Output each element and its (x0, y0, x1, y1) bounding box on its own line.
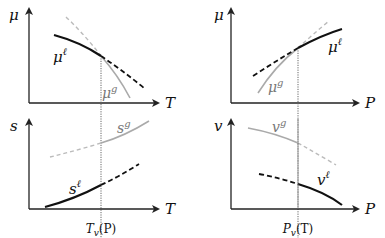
x-axis-label: P (364, 200, 376, 218)
y-axis-label: s (10, 117, 18, 135)
x-axis-label: T (165, 200, 176, 218)
transition-pressure-label: Pv(T) (282, 222, 314, 238)
gas-curve-metastable (298, 143, 336, 165)
transition-temperature-label: Tv(P) (86, 222, 117, 238)
gas-curve-metastable (66, 17, 101, 56)
x-axis-label: P (364, 94, 376, 112)
liquid-label: μℓ (53, 46, 67, 66)
panel-v-vs-P: v P vℓ vg Pv(T) (214, 117, 376, 238)
y-axis-label: μ (214, 6, 224, 24)
liquid-label: μℓ (328, 36, 342, 56)
panel-s-vs-T: s T sℓ sg Tv(P) (10, 117, 176, 238)
gas-curve-metastable (50, 143, 101, 157)
liquid-label: vℓ (317, 169, 330, 189)
liquid-curve-metastable (101, 56, 144, 88)
gas-label: sg (117, 118, 131, 136)
gas-label: vg (272, 117, 286, 135)
panel-mu-vs-P: μ P μℓ μg (214, 6, 376, 238)
liquid-curve-metastable (259, 174, 298, 184)
phase-transition-diagram: μ T μℓ μg μ P μℓ μg s T (0, 0, 385, 238)
liquid-curve-metastable (101, 164, 139, 185)
y-axis-label: μ (9, 6, 19, 24)
x-axis-label: T (165, 94, 176, 112)
panel-mu-vs-T: μ T μℓ μg (9, 6, 176, 238)
gas-label: μg (268, 77, 284, 95)
liquid-curve-metastable (253, 48, 298, 76)
gas-label: μg (102, 83, 118, 101)
y-axis-label: v (214, 117, 223, 135)
